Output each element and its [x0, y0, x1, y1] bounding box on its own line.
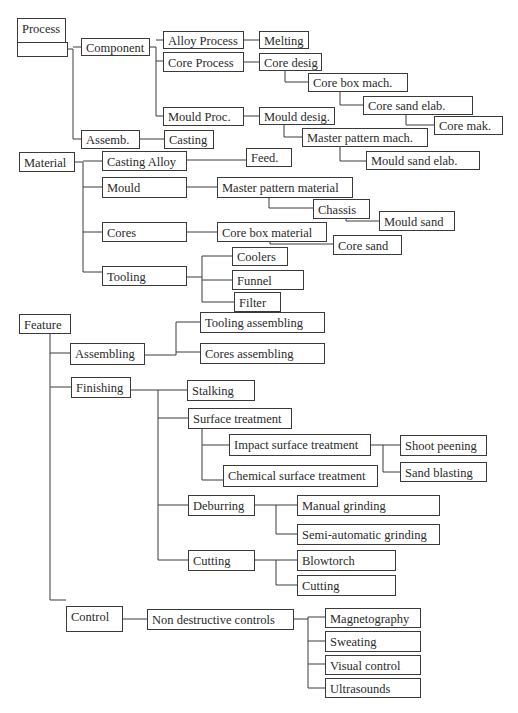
node-deburring: Deburring: [189, 496, 255, 516]
node-impact-surface-treatment: Impact surface treatment: [230, 435, 371, 456]
node-master-pattern-mach: Master pattern mach.: [303, 129, 428, 147]
node-label: Mould: [107, 181, 141, 195]
node-mould-proc: Mould Proc.: [164, 108, 244, 126]
node-master-pattern-material: Master pattern material: [218, 178, 353, 198]
connector-line: [130, 390, 188, 560]
node-sweating: Sweating: [326, 632, 421, 652]
node-label: Coolers: [237, 250, 276, 264]
node-label: Casting: [169, 133, 208, 147]
node-label: Core mak.: [439, 119, 491, 133]
node-label: Funnel: [237, 274, 272, 288]
node-cutting-child: Cutting: [298, 576, 396, 596]
node-label: Core box mach.: [313, 76, 393, 90]
node-non-destructive-controls: Non destructive controls: [148, 610, 294, 630]
diagram-nodes: ProcessComponentAlloy ProcessMeltingCore…: [18, 19, 503, 698]
node-label: Mould sand: [384, 215, 444, 229]
node-label: Cores assembling: [205, 347, 294, 361]
node-label: Process: [22, 22, 60, 36]
node-label: Material: [24, 156, 67, 170]
node-label: Deburring: [193, 499, 245, 513]
node-label: Magnetography: [330, 612, 410, 626]
node-label: Manual grinding: [302, 499, 386, 513]
node-cutting-parent: Cutting: [189, 551, 255, 571]
node-label: Sand blasting: [405, 466, 473, 480]
node-cores-assembling: Cores assembling: [201, 344, 325, 364]
node-mould: Mould: [103, 178, 187, 198]
node-cores: Cores: [103, 223, 187, 242]
node-label: Alloy Process: [168, 34, 238, 48]
connector-line: [202, 256, 234, 302]
node-process: Process: [18, 19, 66, 43]
node-label: Shoot peening: [405, 439, 478, 453]
node-semi-automatic-grinding: Semi-automatic grinding: [298, 525, 440, 545]
node-box: [18, 43, 68, 57]
connector-line: [50, 333, 66, 600]
node-chassis: Chassis: [314, 200, 370, 219]
node-manual-grinding: Manual grinding: [298, 496, 440, 516]
node-label: Core Process: [168, 56, 234, 70]
node-label: Control: [71, 610, 110, 624]
node-label: Chemical surface treatment: [228, 469, 366, 483]
node-magnetography: Magnetography: [326, 609, 421, 628]
node-sand-blasting: Sand blasting: [401, 463, 487, 482]
node-funnel: Funnel: [233, 271, 304, 290]
connector-line: [340, 91, 363, 105]
node-label: Core desig: [264, 56, 319, 70]
node-label: Surface treatment: [193, 412, 282, 426]
node-label: Mould desig.: [264, 110, 330, 124]
node-label: Ultrasounds: [330, 682, 391, 696]
node-process-under: [18, 43, 68, 57]
node-label: Impact surface treatment: [234, 438, 359, 452]
node-alloy-process: Alloy Process: [164, 32, 244, 49]
node-label: Stalking: [192, 384, 234, 398]
connector-line: [284, 124, 302, 137]
node-label: Cutting: [302, 579, 340, 593]
connector-line: [149, 47, 163, 116]
connector-line: [285, 70, 308, 82]
node-label: Core box material: [222, 226, 313, 240]
node-feed: Feed.: [247, 149, 292, 167]
node-label: Semi-automatic grinding: [302, 528, 427, 542]
node-casting-alloy: Casting Alloy: [103, 152, 187, 171]
node-core-mak: Core mak.: [435, 117, 503, 135]
node-label: Casting Alloy: [107, 155, 177, 169]
node-core-box-material: Core box material: [218, 223, 327, 242]
connector-line: [269, 197, 313, 208]
node-surface-treatment: Surface treatment: [189, 409, 292, 429]
node-label: Non destructive controls: [152, 613, 275, 627]
node-label: Master pattern material: [222, 181, 339, 195]
node-label: Sweating: [330, 635, 377, 649]
node-label: Feed.: [251, 151, 278, 165]
node-label: Chassis: [318, 203, 356, 217]
node-visual-control: Visual control: [326, 656, 421, 675]
node-label: Filter: [239, 296, 267, 310]
connector-line: [74, 162, 102, 272]
node-label: Visual control: [330, 659, 401, 673]
connector-line: [67, 49, 81, 139]
node-ultrasounds: Ultrasounds: [326, 679, 421, 698]
connector-line: [340, 146, 366, 161]
node-label: Melting: [264, 34, 304, 48]
node-label: Assemb.: [86, 133, 129, 147]
connector-line: [308, 617, 325, 688]
node-label: Component: [86, 41, 145, 55]
node-mould-sand-elab: Mould sand elab.: [367, 152, 480, 170]
node-label: Core sand elab.: [368, 99, 445, 113]
node-melting: Melting: [260, 32, 309, 49]
node-tooling-assembling: Tooling assembling: [201, 313, 325, 333]
node-core-desig: Core desig: [260, 54, 322, 71]
connector-line: [276, 505, 297, 534]
node-blowtorch: Blowtorch: [298, 551, 396, 571]
node-filter: Filter: [235, 293, 281, 312]
node-label: Finishing: [76, 381, 124, 395]
node-component: Component: [82, 39, 150, 56]
node-label: Mould sand elab.: [371, 154, 457, 168]
node-label: Tooling: [107, 270, 146, 284]
node-tooling: Tooling: [103, 267, 187, 286]
node-label: Tooling assembling: [205, 316, 304, 330]
node-label: Blowtorch: [302, 554, 356, 568]
connector-line: [202, 428, 223, 480]
node-material: Material: [20, 153, 75, 172]
node-shoot-peening: Shoot peening: [401, 436, 487, 456]
tree-diagram: ProcessComponentAlloy ProcessMeltingCore…: [0, 0, 518, 713]
